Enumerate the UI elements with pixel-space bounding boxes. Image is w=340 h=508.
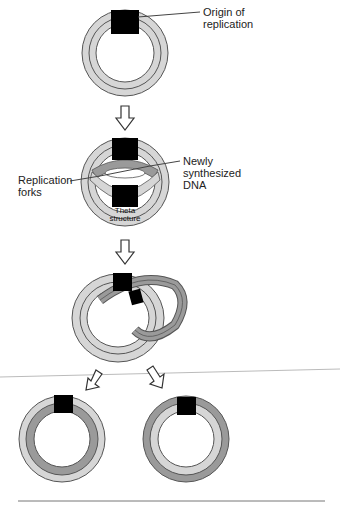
origin-block-top [113,273,132,291]
new-label-line1: Newly [183,155,241,167]
origin-block [54,395,73,413]
origin-block [177,397,196,415]
replication-diagram [0,0,340,508]
down-right-arrow-icon [147,366,164,388]
down-arrow-icon [116,106,134,130]
down-arrow-icon [116,240,134,264]
daughter-dna-2 [143,396,229,482]
forks-label-line1: Replication [18,174,72,186]
origin-label: Origin of replication [203,6,253,30]
origin-label-line2: replication [203,18,253,30]
theta-label-line2: structure [103,215,147,223]
new-label-line3: DNA [183,179,241,191]
forks-label-line2: forks [18,186,72,198]
divider-line [0,369,340,377]
parental-dna-circle [82,10,168,96]
origin-block [111,10,139,34]
origin-label-line1: Origin of [203,6,253,18]
daughter-dna-1 [19,395,105,482]
origin-block-top [112,138,138,160]
theta-label: Theta structure [103,207,147,223]
interlocked-dna [72,273,183,362]
down-left-arrow-icon [86,370,102,390]
origin-block-inner [112,185,138,207]
replication-forks-label: Replication forks [18,174,72,198]
newly-synthesized-label: Newly synthesized DNA [183,155,241,191]
new-label-line2: synthesized [183,167,241,179]
